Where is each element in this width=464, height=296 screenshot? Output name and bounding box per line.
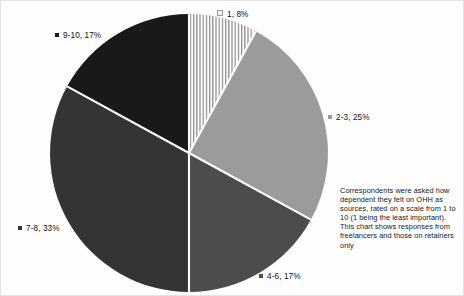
pie-label-4-6-text: 4-6, 17% (267, 272, 301, 281)
legend-swatch-1 (217, 10, 223, 16)
pie-label-9-10: 9-10, 17% (55, 31, 101, 41)
legend-swatch-2-3 (328, 115, 332, 119)
pie-label-7-8: 7-8, 33% (18, 224, 60, 234)
legend-swatch-4-6 (259, 274, 263, 278)
pie-chart (49, 13, 329, 293)
pie-label-1: 1, 8% (217, 10, 248, 20)
pie-label-4-6: 4-6, 17% (259, 272, 301, 282)
chart-canvas: 1, 8% 2-3, 25% 4-6, 17% 7-8, 33% 9-10, 1… (0, 0, 464, 296)
legend-swatch-9-10 (55, 33, 59, 37)
legend-swatch-7-8 (18, 226, 22, 230)
chart-caption: Correspondents were asked how dependent … (340, 186, 460, 250)
pie-label-2-3-text: 2-3, 25% (336, 113, 370, 122)
pie-label-2-3: 2-3, 25% (328, 113, 370, 123)
pie-label-7-8-text: 7-8, 33% (26, 224, 60, 233)
pie-chart-svg (49, 13, 329, 293)
pie-label-9-10-text: 9-10, 17% (63, 31, 101, 40)
pie-label-1-text: 1, 8% (227, 10, 248, 19)
